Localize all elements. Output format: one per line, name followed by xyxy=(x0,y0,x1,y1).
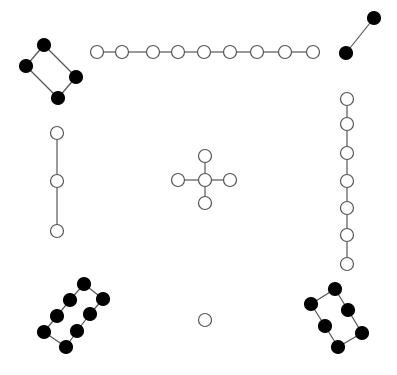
black-node xyxy=(51,310,64,323)
white-node xyxy=(341,147,354,160)
white-node xyxy=(224,174,237,187)
white-node xyxy=(251,46,264,59)
black-node xyxy=(60,341,73,354)
white-node xyxy=(341,258,354,271)
isolated-node xyxy=(199,314,212,327)
white-node xyxy=(341,175,354,188)
black-node xyxy=(332,341,345,354)
black-node xyxy=(20,60,33,73)
white-node xyxy=(199,314,212,327)
black-node xyxy=(329,283,342,296)
white-node xyxy=(279,46,292,59)
black-node xyxy=(38,326,51,339)
graph-diagram xyxy=(0,0,397,375)
black-node xyxy=(340,47,353,60)
white-node xyxy=(51,175,64,188)
black-node xyxy=(368,12,381,25)
black-node xyxy=(78,278,91,291)
black-node xyxy=(356,327,369,340)
white-node xyxy=(116,46,129,59)
black-node xyxy=(71,325,84,338)
black-node xyxy=(84,308,97,321)
black-node xyxy=(305,298,318,311)
white-node xyxy=(307,46,320,59)
graph-canvas xyxy=(0,0,397,375)
white-node xyxy=(199,197,212,210)
top-horizontal-chain xyxy=(91,46,320,59)
white-node xyxy=(341,118,354,131)
black-node xyxy=(38,39,51,52)
white-node xyxy=(172,174,185,187)
white-node xyxy=(51,127,64,140)
white-node xyxy=(341,202,354,215)
white-node xyxy=(172,46,185,59)
black-node xyxy=(97,293,110,306)
white-node xyxy=(198,46,211,59)
black-node xyxy=(70,71,83,84)
white-node xyxy=(341,93,354,106)
white-node xyxy=(91,46,104,59)
white-node xyxy=(224,46,237,59)
black-node xyxy=(52,92,65,105)
white-node xyxy=(341,229,354,242)
white-node xyxy=(51,225,64,238)
white-node xyxy=(199,174,212,187)
black-node xyxy=(342,304,355,317)
black-node xyxy=(64,294,77,307)
white-node xyxy=(147,46,160,59)
white-node xyxy=(199,150,212,163)
black-node xyxy=(319,320,332,333)
